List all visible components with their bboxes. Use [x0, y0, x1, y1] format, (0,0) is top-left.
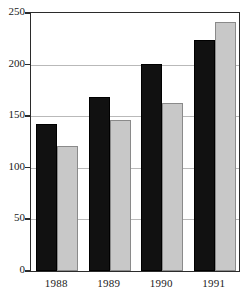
- y-axis-tick: [25, 167, 30, 169]
- bar-group: [89, 13, 131, 271]
- bar-1989-series-1: [89, 97, 110, 271]
- y-axis-tick: [25, 12, 30, 14]
- bar-chart: 0501001502002501988198919901991: [0, 0, 248, 294]
- bar-group: [194, 13, 236, 271]
- bar-group: [36, 13, 78, 271]
- bar-1990-series-2: [162, 103, 183, 271]
- x-axis-label-1989: 1989: [83, 277, 136, 289]
- bar-1988-series-2: [57, 146, 78, 271]
- y-axis-tick: [25, 64, 30, 66]
- y-axis-label: 100: [0, 160, 25, 172]
- y-axis-label: 150: [0, 108, 25, 120]
- bar-1991-series-2: [215, 22, 236, 271]
- x-axis-label-1991: 1991: [188, 277, 241, 289]
- bar-group: [141, 13, 183, 271]
- bar-1988-series-1: [36, 124, 57, 271]
- x-axis-label-1990: 1990: [135, 277, 188, 289]
- bar-1989-series-2: [110, 120, 131, 271]
- y-axis-tick: [25, 115, 30, 117]
- bar-1991-series-1: [194, 40, 215, 271]
- y-axis-tick: [25, 270, 30, 272]
- y-axis-label: 250: [0, 5, 25, 17]
- y-axis-tick: [25, 218, 30, 220]
- plot-area: [30, 12, 240, 272]
- bar-1990-series-1: [141, 64, 162, 271]
- x-axis-label-1988: 1988: [30, 277, 83, 289]
- y-axis-label: 0: [0, 263, 25, 275]
- y-axis-label: 200: [0, 57, 25, 69]
- y-axis-label: 50: [0, 211, 25, 223]
